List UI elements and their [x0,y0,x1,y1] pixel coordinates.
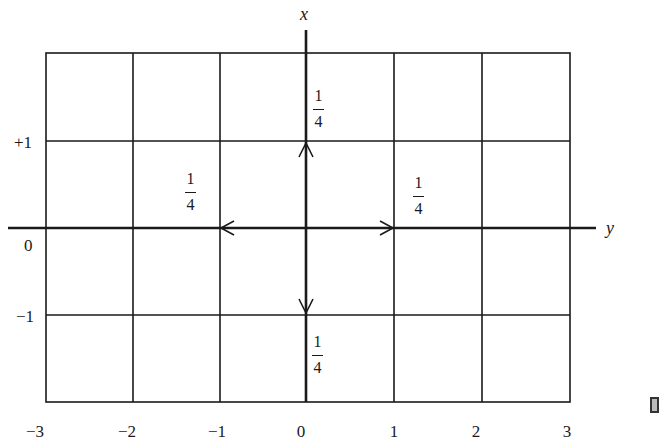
fraction-denominator: 4 [187,197,195,213]
fraction-denominator: 4 [314,360,322,376]
fraction-denominator: 4 [415,201,423,217]
fraction-denominator: 4 [315,114,323,130]
figure-marker-icon [650,397,659,413]
horizontal-tick-label: 0 [297,423,306,440]
vertical-tick-label: 0 [24,237,33,254]
probability-right: 1 4 [413,175,424,217]
axes [8,30,596,402]
horizontal-tick-label: 1 [390,423,399,440]
vertical-tick-label: −1 [16,308,34,325]
fraction-numerator: 1 [415,175,423,191]
horizontal-axis-label: y [606,219,614,237]
horizontal-tick-label: −3 [26,423,44,440]
fraction-bar [185,192,196,193]
probability-up: 1 4 [313,88,324,130]
probability-down: 1 4 [312,334,323,376]
fraction-numerator: 1 [314,334,322,350]
fraction-bar [413,196,424,197]
horizontal-tick-label: −1 [208,423,226,440]
horizontal-tick-label: −2 [118,423,136,440]
probability-left: 1 4 [185,171,196,213]
fraction-numerator: 1 [187,171,195,187]
vertical-axis-label: x [300,5,308,23]
horizontal-tick-label: 2 [472,423,481,440]
fraction-numerator: 1 [315,88,323,104]
fraction-bar [312,355,323,356]
lattice-diagram [0,0,659,444]
horizontal-tick-label: 3 [563,423,572,440]
vertical-tick-label: +1 [14,134,32,151]
fraction-bar [313,109,324,110]
